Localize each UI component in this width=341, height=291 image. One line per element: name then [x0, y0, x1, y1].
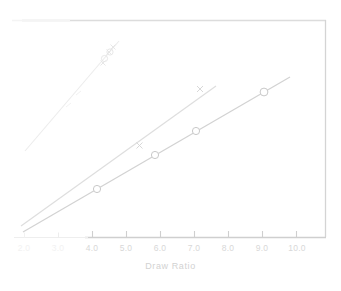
cross-series-line	[21, 86, 216, 226]
cross-series-markers	[137, 86, 204, 149]
x-tick-label-7: 7.0	[188, 243, 201, 253]
x-tick-label-9: 9.0	[256, 243, 269, 253]
circle-marker-3	[192, 127, 199, 134]
cross-marker-2	[197, 86, 203, 92]
x-tick-label-8: 8.0	[222, 243, 235, 253]
series-steep-series	[25, 41, 119, 151]
x-tick-label-6: 6.0	[154, 243, 167, 253]
cross-marker-1	[137, 143, 143, 149]
circle-marker-2	[151, 151, 158, 158]
x-tick-label-10: 10.0	[288, 243, 306, 253]
series-circle-series	[23, 77, 290, 232]
x-tick-label-4: 4.0	[86, 243, 99, 253]
circle-marker-1	[93, 185, 100, 192]
circle-marker-4	[260, 88, 268, 96]
chart-figure: 2.0 3.0 4.0 5.0 6.0 7.0 8.0 9.0 10.0 Dra…	[0, 0, 341, 291]
axis-frame	[12, 20, 326, 238]
x-tick-label-3: 3.0	[52, 243, 65, 253]
series-cross-series	[21, 86, 216, 226]
steep-marker-tick-1	[76, 91, 81, 95]
steep-series-line	[25, 41, 119, 151]
steep-marker-tick-2	[66, 103, 71, 107]
x-tick-label-5: 5.0	[120, 243, 133, 253]
x-tick-label-2: 2.0	[18, 243, 31, 253]
x-axis-title: Draw Ratio	[0, 261, 341, 271]
steep-series-markers	[66, 45, 116, 108]
